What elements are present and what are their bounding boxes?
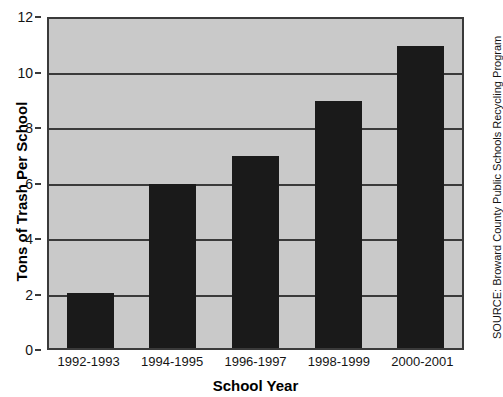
x-axis-label: School Year	[47, 377, 464, 394]
source-note: SOURCE: Broward County Public Schools Re…	[491, 39, 503, 339]
y-tick-mark	[35, 238, 41, 240]
y-tick-mark	[35, 183, 41, 185]
y-tick-label: 6	[25, 176, 33, 192]
bar[interactable]	[232, 156, 279, 348]
bar[interactable]	[149, 184, 196, 349]
bar-slot	[214, 19, 297, 348]
bar[interactable]	[397, 46, 444, 348]
bar-slot	[132, 19, 215, 348]
y-tick-label: 10	[17, 65, 33, 81]
y-tick-mark	[35, 349, 41, 351]
y-tick-mark	[35, 127, 41, 129]
y-tick-label: 12	[17, 9, 33, 25]
x-tick-label: 2000-2001	[381, 354, 464, 369]
plot-area	[47, 17, 464, 350]
bar-slot	[379, 19, 462, 348]
x-axis-tick-labels: 1992-1993 1994-1995 1996-1997 1998-1999 …	[47, 354, 464, 369]
y-tick-mark	[35, 72, 41, 74]
bar-series	[49, 19, 462, 348]
y-tick-mark	[35, 16, 41, 18]
bar-slot	[297, 19, 380, 348]
x-tick-label: 1994-1995	[130, 354, 213, 369]
bar-slot	[49, 19, 132, 348]
y-tick-label: 0	[25, 342, 33, 358]
y-tick-label: 2	[25, 287, 33, 303]
y-tick-label: 4	[25, 231, 33, 247]
x-tick-label: 1996-1997	[214, 354, 297, 369]
bar[interactable]	[67, 293, 114, 348]
bar[interactable]	[315, 101, 362, 348]
y-tick-label: 8	[25, 120, 33, 136]
x-tick-label: 1998-1999	[297, 354, 380, 369]
y-axis-tick-labels: 12 10 8 6 4 2 0	[0, 17, 41, 350]
x-tick-label: 1992-1993	[47, 354, 130, 369]
y-tick-mark	[35, 294, 41, 296]
